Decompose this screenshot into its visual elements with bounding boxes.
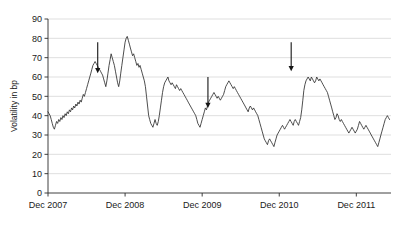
y-tick-label: 70	[32, 53, 42, 63]
x-tick-label: Dec 2008	[106, 200, 145, 210]
y-tick-label: 10	[32, 169, 42, 179]
y-tick-label: 50	[32, 92, 42, 102]
x-tick-label: Dec 2007	[29, 200, 68, 210]
y-tick-label: 40	[32, 111, 42, 121]
volatility-line-chart: 0102030405060708090Dec 2007Dec 2008Dec 2…	[0, 0, 402, 225]
y-tick-group: 0102030405060708090	[32, 14, 48, 198]
chart-canvas: 0102030405060708090Dec 2007Dec 2008Dec 2…	[0, 0, 402, 225]
arrow-head	[95, 68, 100, 73]
annotations-group	[95, 42, 294, 108]
y-tick-label: 60	[32, 72, 42, 82]
y-tick-label: 80	[32, 34, 42, 44]
gridlines-group	[48, 19, 391, 174]
x-tick-label: Dec 2011	[337, 200, 375, 210]
arrow-head	[205, 103, 210, 108]
arrow-head	[289, 66, 294, 71]
series-line-volatility	[48, 36, 390, 146]
y-tick-label: 90	[32, 14, 42, 24]
series-group	[48, 36, 390, 146]
x-tick-label: Dec 2010	[260, 200, 299, 210]
x-tick-group: Dec 2007Dec 2008Dec 2009Dec 2010Dec 2011	[29, 193, 376, 210]
y-axis-title: Volatility in bp	[9, 80, 19, 132]
annotation-arrow-2	[205, 77, 210, 108]
y-tick-label: 30	[32, 130, 42, 140]
annotation-arrow-3	[289, 42, 294, 71]
x-tick-label: Dec 2009	[183, 200, 222, 210]
y-tick-label: 0	[37, 188, 42, 198]
y-tick-label: 20	[32, 150, 42, 160]
axes-group	[48, 19, 391, 193]
